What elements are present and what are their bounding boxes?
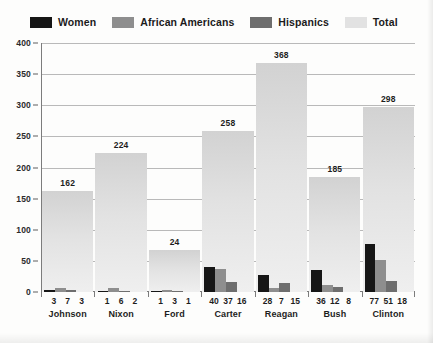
x-value-hispanics: 15 (288, 296, 302, 306)
x-value-women: 77 (367, 296, 381, 306)
bar-african-americans[interactable] (322, 285, 333, 292)
x-axis-group-reagan: 28715Reagan (255, 292, 308, 319)
y-tick-label: 250 (16, 131, 31, 141)
x-axis-group-nixon: 162Nixon (94, 292, 147, 319)
y-tick-mark (33, 260, 38, 261)
bar-women[interactable] (204, 267, 215, 292)
bar-group-johnson: 162 (41, 43, 94, 292)
legend-item-hispanics[interactable]: Hispanics (250, 16, 329, 28)
y-tick-mark (33, 74, 38, 75)
y-axis: 050100150200250300350400 (0, 43, 38, 292)
bar-total-value-label: 298 (362, 94, 415, 104)
x-value-women: 36 (314, 296, 328, 306)
bar-total-value-label: 368 (255, 50, 308, 60)
bar-total-value-label: 24 (148, 237, 201, 247)
x-axis-group-clinton: 775118Clinton (362, 292, 415, 319)
legend-swatch-women-icon (30, 17, 52, 28)
x-value-african-americans: 12 (328, 296, 342, 306)
bar-hispanics[interactable] (386, 281, 397, 292)
y-tick-label: 200 (16, 163, 31, 173)
bar-african-americans[interactable] (375, 260, 386, 292)
x-value-hispanics: 18 (395, 296, 409, 306)
y-tick-mark (33, 229, 38, 230)
y-tick-mark (33, 198, 38, 199)
x-value-women: 3 (47, 296, 61, 306)
x-axis-separator (94, 292, 95, 297)
x-axis-category-label: Reagan (255, 309, 308, 319)
y-tick-label: 100 (16, 225, 31, 235)
y-tick-label: 50 (21, 256, 31, 266)
x-axis-category-label: Clinton (362, 309, 415, 319)
x-value-hispanics: 3 (75, 296, 89, 306)
x-value-hispanics: 16 (235, 296, 249, 306)
y-tick-label: 150 (16, 194, 31, 204)
x-axis-group-ford: 131Ford (148, 292, 201, 319)
x-value-women: 28 (261, 296, 275, 306)
legend-swatch-african_americans-icon (112, 17, 134, 28)
y-tick-mark (33, 105, 38, 106)
bar-total[interactable] (95, 153, 146, 292)
x-axis-separator (362, 292, 363, 297)
x-axis-category-label: Bush (308, 309, 361, 319)
x-axis-values: 162 (94, 296, 147, 306)
x-axis-group-carter: 403716Carter (201, 292, 254, 319)
bar-total[interactable] (149, 250, 200, 292)
x-value-african-americans: 37 (221, 296, 235, 306)
bar-total[interactable] (256, 63, 307, 292)
x-axis: 373Johnson162Nixon131Ford403716Carter287… (41, 292, 415, 338)
x-value-african-americans: 51 (381, 296, 395, 306)
x-value-hispanics: 8 (342, 296, 356, 306)
x-axis-category-label: Nixon (94, 309, 147, 319)
bar-women[interactable] (258, 275, 269, 292)
x-axis-values: 403716 (201, 296, 254, 306)
legend-item-total[interactable]: Total (345, 16, 398, 28)
bar-women[interactable] (365, 244, 376, 292)
legend-swatch-hispanics-icon (250, 17, 272, 28)
bar-total-value-label: 224 (94, 140, 147, 150)
x-value-african-americans: 7 (61, 296, 75, 306)
x-value-hispanics: 1 (182, 296, 196, 306)
x-value-hispanics: 2 (128, 296, 142, 306)
bar-group-bush: 185 (308, 43, 361, 292)
x-value-african-americans: 6 (114, 296, 128, 306)
x-axis-values: 131 (148, 296, 201, 306)
y-tick-label: 400 (16, 38, 31, 48)
x-axis-group-bush: 36128Bush (308, 292, 361, 319)
page-edge-shadow-right (427, 0, 433, 343)
x-axis-values: 373 (41, 296, 94, 306)
x-axis-category-label: Ford (148, 309, 201, 319)
y-tick-mark (33, 136, 38, 137)
x-axis-separator (148, 292, 149, 297)
bar-hispanics[interactable] (226, 282, 237, 292)
legend-label: Total (373, 16, 398, 28)
y-tick-label: 300 (16, 100, 31, 110)
x-axis-separator (41, 292, 42, 297)
legend-item-african_americans[interactable]: African Americans (112, 16, 234, 28)
chart-legend: WomenAfrican AmericansHispanicsTotal (30, 14, 398, 30)
bar-african-americans[interactable] (215, 269, 226, 292)
x-axis-separator (255, 292, 256, 297)
y-tick-mark (33, 43, 38, 44)
x-axis-values: 36128 (308, 296, 361, 306)
x-axis-category-label: Johnson (41, 309, 94, 319)
bar-group-reagan: 368 (255, 43, 308, 292)
bar-total-value-label: 258 (201, 118, 254, 128)
x-value-african-americans: 7 (274, 296, 288, 306)
legend-label: Women (58, 16, 96, 28)
x-value-african-americans: 3 (168, 296, 182, 306)
y-tick-mark (33, 167, 38, 168)
bar-chart: WomenAfrican AmericansHispanicsTotal 050… (0, 0, 433, 343)
x-axis-separator (414, 292, 415, 297)
bar-hispanics[interactable] (279, 283, 290, 292)
x-axis-category-label: Carter (201, 309, 254, 319)
bar-total-value-label: 185 (308, 164, 361, 174)
bar-groups: 16222424258368185298 (41, 43, 415, 292)
x-value-women: 1 (100, 296, 114, 306)
bar-total[interactable] (42, 191, 93, 292)
y-tick-label: 0 (26, 287, 31, 297)
legend-item-women[interactable]: Women (30, 16, 96, 28)
x-axis-separator (308, 292, 309, 297)
x-value-women: 1 (154, 296, 168, 306)
bar-women[interactable] (311, 270, 322, 292)
bar-group-clinton: 298 (362, 43, 415, 292)
